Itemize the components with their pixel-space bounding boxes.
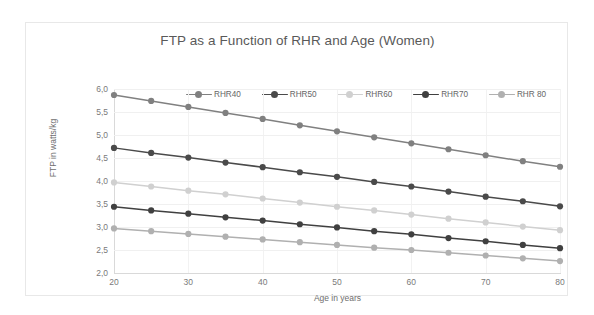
data-point-marker [185, 154, 191, 160]
data-point-marker [334, 242, 340, 248]
data-point-marker [334, 204, 340, 210]
data-point-marker [408, 231, 414, 237]
data-point-marker [297, 169, 303, 175]
data-point-marker [445, 235, 451, 241]
data-point-marker [445, 216, 451, 222]
data-point-marker [111, 204, 117, 210]
data-point-marker [297, 221, 303, 227]
x-tick-label: 60 [396, 277, 426, 287]
data-point-marker [185, 104, 191, 110]
data-point-marker [260, 195, 266, 201]
chart-card: FTP as a Function of RHR and Age (Women)… [25, 22, 568, 296]
data-point-marker [334, 224, 340, 230]
data-point-marker [297, 200, 303, 206]
data-point-marker [483, 219, 489, 225]
data-point-marker [371, 228, 377, 234]
data-point-marker [445, 250, 451, 256]
data-point-marker [297, 122, 303, 128]
data-point-marker [520, 158, 526, 164]
y-tick-label: 4,5 [68, 153, 108, 163]
x-tick-label: 30 [173, 277, 203, 287]
data-point-marker [520, 255, 526, 261]
data-point-marker [148, 150, 154, 156]
data-point-marker [111, 225, 117, 231]
data-point-marker [111, 179, 117, 185]
data-point-marker [557, 258, 563, 264]
data-point-marker [148, 98, 154, 104]
data-point-marker [557, 227, 563, 233]
data-point-marker [185, 211, 191, 217]
y-tick-label: 6,0 [68, 84, 108, 94]
data-point-marker [148, 207, 154, 213]
data-point-marker [408, 211, 414, 217]
data-point-marker [260, 236, 266, 242]
data-point-marker [520, 198, 526, 204]
series-lines [114, 89, 560, 273]
x-axis-line [114, 273, 561, 274]
chart-title: FTP as a Function of RHR and Age (Women) [26, 33, 569, 48]
data-point-marker [222, 234, 228, 240]
data-point-marker [371, 245, 377, 251]
x-axis-ticks: 20304050607080 [114, 277, 561, 291]
data-point-marker [445, 146, 451, 152]
data-point-marker [222, 214, 228, 220]
data-point-marker [520, 223, 526, 229]
data-point-marker [334, 174, 340, 180]
data-point-marker [260, 164, 266, 170]
y-tick-label: 5,5 [68, 107, 108, 117]
data-point-marker [260, 217, 266, 223]
y-axis-label: FTP in watts/kg [48, 93, 58, 203]
x-tick-label: 20 [99, 277, 129, 287]
y-tick-label: 3,0 [68, 222, 108, 232]
data-point-marker [297, 239, 303, 245]
data-point-marker [483, 238, 489, 244]
y-tick-label: 5,0 [68, 130, 108, 140]
y-axis-ticks: 2,02,53,03,54,04,55,05,56,0 [68, 89, 108, 274]
series-rhr40 [111, 92, 563, 170]
data-point-marker [483, 252, 489, 258]
data-point-marker [408, 247, 414, 253]
data-point-marker [371, 207, 377, 213]
data-point-marker [408, 183, 414, 189]
data-point-marker [557, 164, 563, 170]
data-point-marker [334, 128, 340, 134]
x-tick-label: 40 [248, 277, 278, 287]
data-point-marker [371, 134, 377, 140]
data-point-marker [371, 179, 377, 185]
data-point-marker [557, 203, 563, 209]
data-point-marker [185, 188, 191, 194]
x-tick-label: 50 [322, 277, 352, 287]
x-tick-label: 70 [471, 277, 501, 287]
y-tick-label: 4,0 [68, 176, 108, 186]
data-point-marker [483, 194, 489, 200]
data-point-marker [408, 140, 414, 146]
series-rhr80 [111, 225, 563, 264]
data-point-marker [111, 145, 117, 151]
data-point-marker [483, 152, 489, 158]
data-point-marker [111, 92, 117, 98]
y-tick-label: 3,5 [68, 199, 108, 209]
data-point-marker [222, 191, 228, 197]
data-point-marker [557, 245, 563, 251]
data-point-marker [520, 242, 526, 248]
x-tick-label: 80 [545, 277, 575, 287]
data-point-marker [222, 160, 228, 166]
data-point-marker [445, 188, 451, 194]
data-point-marker [148, 228, 154, 234]
y-tick-label: 2,5 [68, 245, 108, 255]
data-point-marker [148, 183, 154, 189]
x-axis-label: Age in years [114, 293, 561, 303]
series-rhr50 [111, 145, 563, 210]
data-point-marker [260, 116, 266, 122]
plot-area [114, 89, 560, 273]
data-point-marker [222, 110, 228, 116]
data-point-marker [185, 231, 191, 237]
